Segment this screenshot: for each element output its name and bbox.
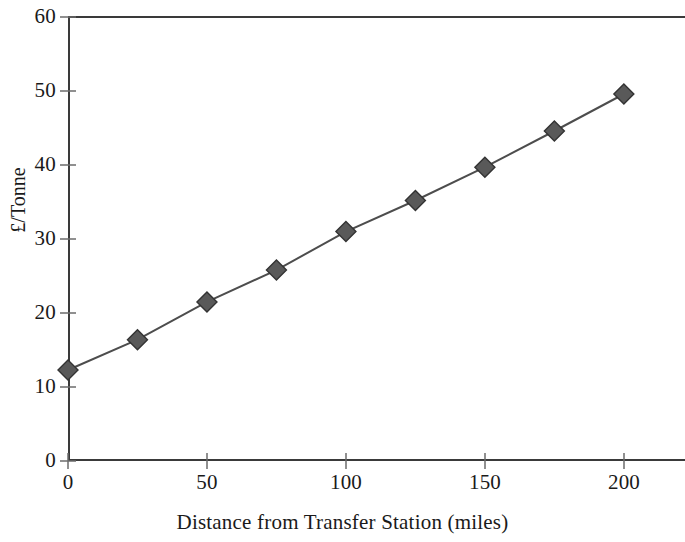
x-tick-label-200: 200 [584, 472, 664, 493]
x-tick-label-50: 50 [167, 472, 247, 493]
x-tick-label-0: 0 [28, 472, 108, 493]
y-axis-title: £/Tonne [8, 130, 28, 270]
y-tick-label-0: 0 [10, 450, 56, 471]
y-tick-label-60: 60 [10, 6, 56, 27]
y-axis-tick-labels: 60 50 40 30 20 10 0 [0, 0, 56, 542]
x-tick-label-150: 150 [445, 472, 525, 493]
x-axis-title: Distance from Transfer Station (miles) [0, 512, 685, 533]
x-tick-label-100: 100 [306, 472, 386, 493]
y-tick-label-10: 10 [10, 376, 56, 397]
line-chart: 60 50 40 30 20 10 0 0 50 100 150 200 £/T… [0, 0, 685, 542]
y-tick-label-20: 20 [10, 302, 56, 323]
y-tick-label-50: 50 [10, 80, 56, 101]
plot-area [68, 16, 685, 461]
